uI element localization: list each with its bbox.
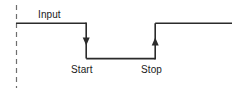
arrow-down-icon: [83, 38, 90, 46]
event-label-stop: Stop: [141, 64, 162, 76]
event-label-start: Start: [71, 64, 93, 76]
timing-diagram: Input Start Stop: [0, 0, 238, 95]
arrow-up-icon: [152, 38, 159, 46]
signal-label-input: Input: [38, 9, 61, 21]
waveform-canvas: [0, 0, 238, 95]
